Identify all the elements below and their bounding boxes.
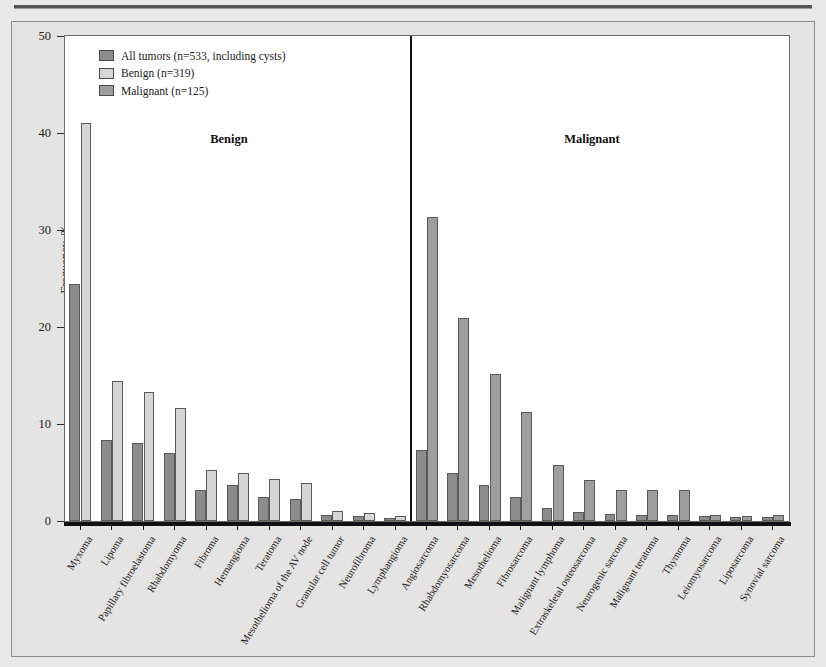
bar	[679, 490, 690, 521]
figure-page: Frequency, % 01020304050 All tumors (n=5…	[0, 0, 826, 667]
bar	[605, 514, 616, 521]
x-tick	[111, 526, 112, 530]
x-tick	[457, 526, 458, 530]
y-tick-label-30: 30	[17, 224, 51, 237]
x-tick	[678, 526, 679, 530]
legend-item-benign: Benign (n=319)	[99, 66, 286, 81]
y-tick-20	[57, 327, 64, 328]
bar	[490, 374, 501, 521]
bar	[321, 515, 332, 521]
x-tick	[332, 526, 333, 530]
bar	[773, 515, 784, 521]
bar	[332, 511, 343, 521]
bar	[647, 490, 658, 521]
bar	[364, 513, 375, 521]
x-tick	[237, 526, 238, 530]
bar	[353, 516, 364, 521]
x-tick	[80, 526, 81, 530]
figure-panel: Frequency, % 01020304050 All tumors (n=5…	[11, 21, 815, 657]
legend-swatch-all	[99, 50, 114, 61]
x-axis-label: Myxoma	[65, 534, 94, 572]
bar	[112, 381, 123, 521]
bar	[742, 516, 753, 521]
section-divider	[410, 36, 412, 521]
y-tick-label-50: 50	[17, 30, 51, 43]
x-tick	[426, 526, 427, 530]
y-tick-label-40: 40	[17, 127, 51, 140]
bar	[101, 440, 112, 521]
legend-label-benign: Benign (n=319)	[121, 67, 194, 79]
x-tick	[489, 526, 490, 530]
bar	[227, 485, 238, 521]
bar	[667, 515, 678, 521]
bar	[301, 483, 312, 521]
y-tick-label-20: 20	[17, 321, 51, 334]
bar	[195, 490, 206, 521]
page-top-rule	[14, 5, 812, 8]
y-tick-30	[57, 230, 64, 231]
bar	[521, 412, 532, 521]
x-tick	[772, 526, 773, 530]
x-tick	[269, 526, 270, 530]
bar	[384, 518, 395, 521]
x-axis-label: Teratoma	[253, 534, 283, 573]
bar	[542, 508, 553, 521]
legend-swatch-benign	[99, 68, 114, 79]
bar	[447, 473, 458, 521]
chart-legend: All tumors (n=533, including cysts)Benig…	[99, 48, 286, 101]
bar	[762, 517, 773, 521]
plot-area: All tumors (n=533, including cysts)Benig…	[64, 35, 790, 522]
x-tick	[615, 526, 616, 530]
bar	[616, 490, 627, 521]
bar	[710, 515, 721, 521]
legend-label-all: All tumors (n=533, including cysts)	[121, 50, 286, 62]
y-tick-10	[57, 424, 64, 425]
y-tick-40	[57, 133, 64, 134]
x-tick	[143, 526, 144, 530]
bar	[164, 453, 175, 521]
bar	[69, 284, 80, 521]
bar	[132, 443, 143, 521]
bar	[258, 497, 269, 521]
bar	[479, 485, 490, 521]
plot-inner: All tumors (n=533, including cysts)Benig…	[65, 36, 789, 521]
section-title-malignant: Malignant	[564, 132, 620, 147]
bar	[510, 497, 521, 521]
y-tick-0	[57, 521, 64, 522]
bar	[699, 516, 710, 521]
x-tick	[395, 526, 396, 530]
x-axis-labels: MyxomaLipomaPapillary fibroelastomaRhabd…	[64, 526, 791, 667]
x-axis-label: Fibroma	[192, 534, 220, 570]
x-tick	[646, 526, 647, 530]
x-tick	[206, 526, 207, 530]
bar	[206, 470, 217, 521]
bar	[175, 408, 186, 521]
bar	[458, 318, 469, 521]
x-axis-label: Papillary fibroelastoma	[96, 534, 157, 623]
legend-item-all: All tumors (n=533, including cysts)	[99, 48, 286, 63]
bar	[144, 392, 155, 521]
bar	[269, 479, 280, 521]
bar	[81, 123, 92, 521]
legend-item-malignant: Malignant (n=125)	[99, 83, 286, 98]
y-tick-label-0: 0	[17, 515, 51, 528]
bar	[584, 480, 595, 521]
x-tick	[520, 526, 521, 530]
x-tick	[741, 526, 742, 530]
section-title-benign: Benign	[210, 132, 248, 147]
bar	[553, 465, 564, 521]
bar	[238, 473, 249, 521]
bar	[395, 516, 406, 521]
bar	[416, 450, 427, 521]
x-tick	[300, 526, 301, 530]
bar	[636, 515, 647, 521]
x-axis-label: Thymoma	[660, 534, 692, 576]
x-tick	[174, 526, 175, 530]
bar	[573, 512, 584, 521]
x-tick	[709, 526, 710, 530]
x-tick	[583, 526, 584, 530]
bar	[730, 517, 741, 521]
y-tick-50	[57, 36, 64, 37]
x-tick	[363, 526, 364, 530]
x-tick	[552, 526, 553, 530]
